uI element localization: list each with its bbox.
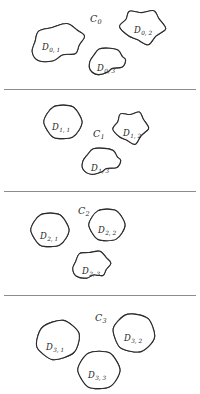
- domain-label-base: D: [88, 370, 95, 380]
- cluster-label-base: C: [90, 13, 97, 24]
- cluster-label: C1: [93, 129, 104, 139]
- domain-label-base: D: [91, 163, 98, 173]
- cluster-label-subscript: 1: [101, 133, 105, 141]
- cluster-divider: [4, 295, 196, 296]
- domain-blob: [74, 140, 128, 184]
- domain-label: D2, 1: [40, 232, 58, 241]
- domain-label: D0, 2: [134, 26, 152, 35]
- domain-label: D3, 2: [124, 334, 142, 343]
- domain-label-subscript: 3, 1: [53, 347, 64, 353]
- domain-label: D3, 1: [46, 343, 64, 352]
- domain-label-base: D: [97, 63, 104, 73]
- domain-label-base: D: [123, 128, 130, 138]
- domain-blob: [70, 343, 128, 394]
- domain-label: D2, 3: [82, 267, 100, 276]
- domain-blob: [28, 313, 88, 367]
- cluster-label: C0: [90, 14, 101, 24]
- domain-label-base: D: [98, 225, 105, 235]
- domain-blob: [105, 306, 163, 360]
- cluster-label-base: C: [93, 128, 100, 139]
- domain-label-subscript: 0, 2: [141, 30, 152, 36]
- domain-label: D2, 2: [98, 226, 116, 235]
- domain-label-base: D: [124, 333, 131, 343]
- domain-label-subscript: 1, 2: [130, 133, 141, 139]
- cluster-label: C3: [95, 313, 106, 323]
- cluster-divider: [4, 89, 196, 90]
- domain-label-base: D: [82, 266, 89, 276]
- domain-blob: [81, 40, 133, 84]
- domain-label: D3, 3: [88, 371, 106, 380]
- domain-label-base: D: [40, 231, 47, 241]
- domain-label-subscript: 2, 1: [47, 236, 58, 242]
- domain-label-subscript: 0, 1: [49, 47, 60, 53]
- domain-label-base: D: [46, 342, 53, 352]
- cluster-label-subscript: 0: [98, 18, 102, 26]
- domain-label: D1, 1: [52, 123, 70, 132]
- domain-label-base: D: [42, 42, 49, 52]
- domain-label-subscript: 2, 3: [89, 271, 100, 277]
- domain-label-subscript: 1, 3: [98, 168, 109, 174]
- cluster-label-subscript: 2: [86, 210, 90, 218]
- cluster-label-base: C: [95, 312, 102, 323]
- domain-blob: [64, 243, 118, 287]
- domain-label-subscript: 1, 1: [59, 127, 70, 133]
- domain-label-subscript: 3, 3: [95, 375, 106, 381]
- domain-label: D0, 1: [42, 43, 60, 52]
- cluster-label: C2: [78, 206, 89, 216]
- domain-label-subscript: 2, 2: [105, 230, 116, 236]
- domain-blob: [106, 103, 156, 151]
- domain-blob: [36, 97, 90, 147]
- domain-label-base: D: [134, 25, 141, 35]
- domain-blob: [23, 205, 77, 255]
- cluster-label-subscript: 3: [103, 317, 107, 325]
- domain-label-subscript: 3, 2: [131, 338, 142, 344]
- domain-label: D0, 3: [97, 64, 115, 73]
- domain-label: D1, 2: [123, 129, 141, 138]
- cluster-label-base: C: [78, 205, 85, 216]
- domain-label: D1, 3: [91, 164, 109, 173]
- domain-label-subscript: 0, 3: [104, 68, 115, 74]
- domain-label-base: D: [52, 122, 59, 132]
- cluster-divider: [4, 191, 196, 192]
